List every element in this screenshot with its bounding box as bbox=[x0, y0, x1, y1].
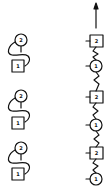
diagram-canvas: 2 1 2 1 2 1 2 1 2 1 2 1 bbox=[0, 0, 112, 191]
node-label: 1 bbox=[94, 63, 98, 69]
node-label: 2 bbox=[95, 38, 99, 44]
node-label: 1 bbox=[16, 63, 20, 69]
node-label: 2 bbox=[19, 37, 23, 43]
node-label: 2 bbox=[19, 145, 23, 151]
node-label: 2 bbox=[95, 94, 99, 100]
spring-connector bbox=[93, 103, 98, 119]
spring-connector bbox=[94, 131, 99, 147]
node-label: 1 bbox=[94, 176, 98, 182]
node-label: 2 bbox=[95, 150, 99, 156]
node-label: 2 bbox=[19, 93, 23, 99]
spring-connector bbox=[93, 47, 98, 60]
node-label: 1 bbox=[94, 122, 98, 128]
node-label: 1 bbox=[16, 171, 20, 177]
node-label: 1 bbox=[16, 120, 20, 126]
arrowhead-icon bbox=[94, 3, 98, 9]
spring-connector bbox=[94, 72, 99, 91]
spring-connector bbox=[93, 159, 98, 173]
